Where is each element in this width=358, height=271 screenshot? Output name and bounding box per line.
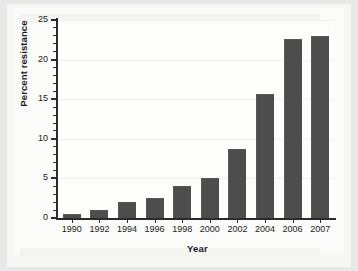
x-tick (99, 220, 100, 223)
bar (90, 210, 108, 218)
y-tick-label: 10 (16, 133, 48, 143)
x-tick-label: 2002 (224, 224, 252, 234)
x-axis-line (56, 218, 336, 220)
x-tick-label: 1998 (168, 224, 196, 234)
x-tick (155, 220, 156, 223)
bar (118, 202, 136, 218)
gridline (58, 20, 334, 21)
x-tick-label: 1992 (86, 224, 114, 234)
x-tick (72, 220, 73, 223)
bar (311, 36, 329, 218)
bar (201, 178, 219, 218)
bar (173, 186, 191, 218)
bar (228, 149, 246, 218)
y-axis-line (56, 18, 58, 220)
x-tick (237, 220, 238, 223)
chart-figure: 0510152025 19901992199419961998200020022… (0, 0, 358, 271)
bar (284, 39, 302, 218)
x-tick (293, 220, 294, 223)
x-tick-label: 2006 (279, 224, 307, 234)
bar (146, 198, 164, 218)
y-tick-label: 5 (16, 172, 48, 182)
x-tick (210, 220, 211, 223)
bar (256, 94, 274, 218)
x-tick (265, 220, 266, 223)
x-axis-title: Year (55, 243, 340, 254)
x-tick-label: 1990 (58, 224, 86, 234)
x-tick-label: 2000 (196, 224, 224, 234)
x-tick (127, 220, 128, 223)
y-tick-label: 0 (16, 212, 48, 222)
x-tick-label: 2004 (251, 224, 279, 234)
x-tick (182, 220, 183, 223)
y-axis-title: Percent resistance (18, 0, 29, 134)
x-tick-label: 2007 (306, 224, 334, 234)
x-tick (320, 220, 321, 223)
x-tick-label: 1994 (113, 224, 141, 234)
x-tick-label: 1996 (141, 224, 169, 234)
